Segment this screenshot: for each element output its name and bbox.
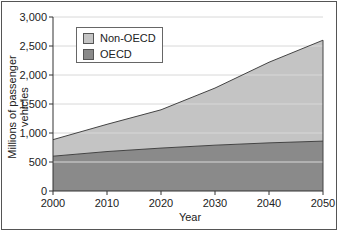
- legend-swatch-non-oecd: [83, 33, 94, 44]
- area-chart: 05001,0001,5002,0002,5003,00020002010202…: [0, 0, 340, 233]
- legend-item-non-oecd: Non-OECD: [83, 31, 156, 45]
- y-tick-label: 0: [41, 185, 47, 197]
- x-axis-label: Year: [160, 211, 220, 223]
- legend-label: OECD: [100, 48, 132, 60]
- y-tick-label: 3,000: [19, 11, 47, 23]
- x-tick-label: 2040: [257, 197, 281, 209]
- legend-item-oecd: OECD: [83, 47, 132, 61]
- x-tick-label: 2030: [203, 197, 227, 209]
- x-tick-label: 2010: [95, 197, 119, 209]
- x-tick-label: 2020: [149, 197, 173, 209]
- x-tick-label: 2050: [311, 197, 335, 209]
- y-axis-label: Millions of passenger vehicles: [6, 37, 30, 177]
- legend-label: Non-OECD: [100, 32, 156, 44]
- legend: Non-OECD OECD: [76, 27, 163, 63]
- legend-swatch-oecd: [83, 49, 94, 60]
- x-tick-label: 2000: [41, 197, 65, 209]
- y-tick-label: 500: [29, 156, 47, 168]
